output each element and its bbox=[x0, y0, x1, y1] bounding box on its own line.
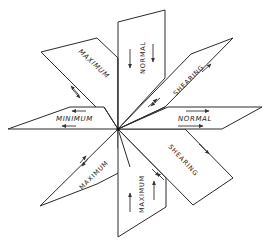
plane-left-horizontal: MINIMUM bbox=[8, 107, 118, 129]
plane-lower-left: MAXIMUM bbox=[40, 129, 130, 206]
plane-label: MAXIMUM bbox=[138, 175, 146, 213]
plane-label: NORMAL bbox=[139, 41, 147, 74]
shear-arrow-icon bbox=[73, 90, 80, 98]
plane-label: MINIMUM bbox=[56, 115, 93, 123]
plane-label: NORMAL bbox=[178, 115, 212, 123]
stress-planes-diagram: MAXIMUM MINIMUM MAXIMUM MAXIMUM SHEARING… bbox=[0, 0, 269, 247]
center-point bbox=[116, 127, 119, 130]
